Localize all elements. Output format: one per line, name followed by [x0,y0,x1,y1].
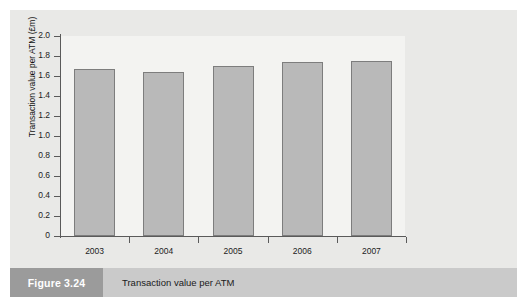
bar [213,66,254,236]
figure-panel: Transaction value per ATM (£m) 2.01.81.6… [10,10,517,297]
y-axis-tick-mark [54,196,60,197]
x-axis-tick-mark [406,237,407,243]
bar [143,72,184,236]
x-axis-tick-mark [268,237,269,243]
bar [74,69,115,236]
y-axis-tick-mark [54,156,60,157]
y-axis-tick-label: 1.4 [10,90,50,101]
bar [351,61,392,236]
y-axis-tick-label: 1.0 [10,130,50,141]
x-axis-tick-mark [129,237,130,243]
figure-number-label: Figure 3.24 [28,277,86,289]
y-axis-tick-label: 1.8 [10,50,50,61]
y-axis-tick-label: 0 [10,230,50,241]
y-axis-tick-mark [54,96,60,97]
x-axis-line [60,236,406,237]
figure-caption-bar: Figure 3.24 Transaction value per ATM [10,268,517,297]
y-axis-tick-label: 0.4 [10,190,50,201]
y-axis-tick-mark [54,176,60,177]
x-axis-tick-label: 2003 [75,246,115,256]
x-axis-tick-mark [337,237,338,243]
y-axis-tick-label: 1.2 [10,110,50,121]
y-axis-tick-label: 0.8 [10,150,50,161]
y-axis-line [60,34,61,238]
x-axis-tick-label: 2007 [351,246,391,256]
figure-number-box: Figure 3.24 [10,268,103,297]
figure-caption-box: Transaction value per ATM [103,268,517,297]
bar [282,62,323,236]
figure-caption-label: Transaction value per ATM [122,277,234,288]
y-axis-tick-mark [54,136,60,137]
y-axis-tick-mark [54,116,60,117]
y-axis-tick-label: 1.6 [10,70,50,81]
x-axis-tick-label: 2004 [144,246,184,256]
y-axis-tick-mark [54,236,60,237]
y-axis-tick-label: 0.6 [10,170,50,181]
y-axis-tick-mark [54,36,60,37]
y-axis-tick-mark [54,56,60,57]
y-axis-tick-mark [54,216,60,217]
x-axis-tick-mark [198,237,199,243]
x-axis-tick-label: 2006 [282,246,322,256]
y-axis-tick-label: 2.0 [10,30,50,41]
y-axis-tick-label: 0.2 [10,210,50,221]
x-axis-tick-label: 2005 [213,246,253,256]
y-axis-tick-mark [54,76,60,77]
